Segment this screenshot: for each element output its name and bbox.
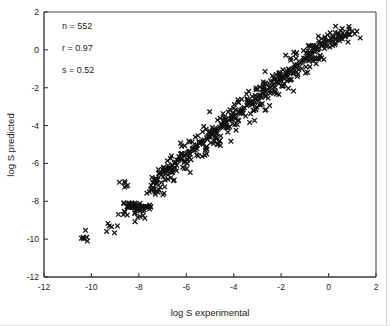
y-tick-label: -12 (27, 272, 40, 282)
x-tick-label: -4 (230, 282, 238, 292)
data-point-marker (215, 118, 220, 123)
y-tick-label: 0 (34, 45, 39, 55)
data-point-marker (333, 24, 338, 29)
y-tick-label: -10 (27, 234, 40, 244)
data-point-marker (115, 224, 120, 229)
x-tick-label: 0 (326, 282, 331, 292)
data-point-marker (294, 56, 299, 61)
plot-frame (44, 12, 376, 277)
data-point-marker (201, 124, 206, 129)
annotation-s: s = 0.52 (62, 65, 94, 75)
y-axis-title: log S predicted (5, 113, 16, 176)
data-point-marker (314, 61, 319, 66)
data-point-marker (162, 191, 167, 196)
data-point-marker (234, 128, 239, 133)
y-tick-label: -8 (31, 196, 39, 206)
data-point-marker (267, 103, 272, 108)
data-point-marker (133, 219, 138, 224)
annotation-n: n = 552 (62, 21, 92, 31)
data-point-marker (85, 239, 90, 244)
x-tick-label: -2 (277, 282, 285, 292)
y-tick-label: -6 (31, 158, 39, 168)
data-point-marker (346, 40, 351, 45)
data-point-marker (308, 64, 313, 69)
y-tick-label: 2 (34, 7, 39, 17)
scatter-plot-figure: -12-10-8-6-4-202-12-10-8-6-4-202 log S e… (0, 0, 390, 326)
annotation-r: r = 0.97 (62, 43, 93, 53)
data-point-marker (263, 69, 268, 74)
data-point-marker (286, 86, 291, 91)
data-point-marker (225, 130, 230, 135)
data-point-marker (116, 212, 121, 217)
plot-canvas: -12-10-8-6-4-202-12-10-8-6-4-202 log S e… (0, 0, 390, 326)
x-tick-label: -6 (183, 282, 191, 292)
data-point-marker (358, 36, 363, 41)
data-point-marker (104, 229, 109, 234)
axis-ticks (44, 12, 376, 277)
x-tick-label: 2 (374, 282, 379, 292)
x-tick-label: -10 (85, 282, 98, 292)
data-point-marker (185, 166, 190, 171)
x-tick-label: -12 (38, 282, 51, 292)
data-point-marker (182, 143, 187, 148)
scan-edge-right (386, 0, 387, 326)
y-tick-label: -4 (31, 121, 39, 131)
data-point-marker (207, 109, 212, 114)
data-points (79, 24, 362, 243)
data-point-marker (83, 228, 88, 233)
data-point-marker (117, 180, 122, 185)
data-point-marker (247, 120, 252, 125)
data-point-marker (143, 216, 148, 221)
data-point-marker (229, 139, 234, 144)
x-axis-title: log S experimental (171, 307, 250, 318)
data-point-marker (281, 67, 286, 72)
data-point-marker (355, 29, 360, 34)
data-point-marker (112, 231, 117, 236)
data-point-marker (291, 89, 296, 94)
data-point-marker (283, 53, 288, 58)
data-point-marker (322, 57, 327, 62)
x-tick-label: -8 (135, 282, 143, 292)
data-point-marker (328, 31, 333, 36)
data-point-marker (162, 185, 167, 190)
data-point-marker (244, 92, 249, 97)
y-tick-label: -2 (31, 83, 39, 93)
data-point-marker (252, 118, 257, 123)
